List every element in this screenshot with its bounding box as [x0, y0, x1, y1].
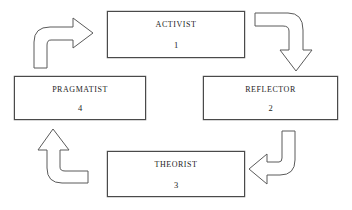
node-label-pragmatist: PRAGMATIST [15, 86, 145, 94]
node-box-pragmatist: PRAGMATIST 4 [14, 76, 146, 120]
node-number-theorist: 3 [108, 181, 244, 190]
node-number-reflector: 2 [204, 104, 337, 113]
node-number-activist: 1 [108, 41, 244, 50]
arrow-pragmatist-to-activist [34, 18, 93, 68]
arrow-activist-to-reflector [255, 13, 312, 71]
node-box-activist: ACTIVIST 1 [107, 11, 245, 58]
node-number-pragmatist: 4 [15, 104, 145, 113]
arrow-theorist-to-pragmatist [38, 129, 88, 183]
node-label-theorist: THEORIST [108, 161, 244, 169]
node-label-activist: ACTIVIST [108, 21, 244, 29]
arrow-reflector-to-theorist [249, 131, 295, 184]
node-box-theorist: THEORIST 3 [107, 151, 245, 197]
node-label-reflector: REFLECTOR [204, 86, 337, 94]
learning-cycle-diagram: ACTIVIST 1 REFLECTOR 2 THEORIST 3 PRAGMA… [0, 0, 352, 210]
node-box-reflector: REFLECTOR 2 [203, 76, 338, 120]
